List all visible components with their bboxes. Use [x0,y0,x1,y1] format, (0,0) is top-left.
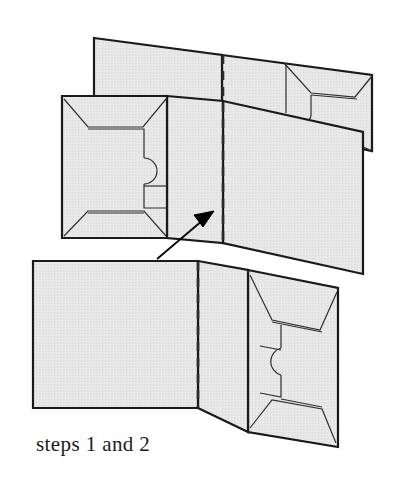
upper-front-right-panel-face [223,101,363,274]
lower-right-panel [248,270,338,447]
lower-right-panel-face [248,270,338,447]
upper-front-mid-panel-face [167,96,223,243]
figure-caption: steps 1 and 2 [36,432,150,457]
figure-root: steps 1 and 2 [0,0,401,484]
folding-diagram [0,0,401,484]
lower-mid-panel-face [198,261,248,432]
upper-assembly [62,38,372,274]
upper-front-left-panel [62,96,167,238]
lower-left-panel-face [33,261,198,408]
